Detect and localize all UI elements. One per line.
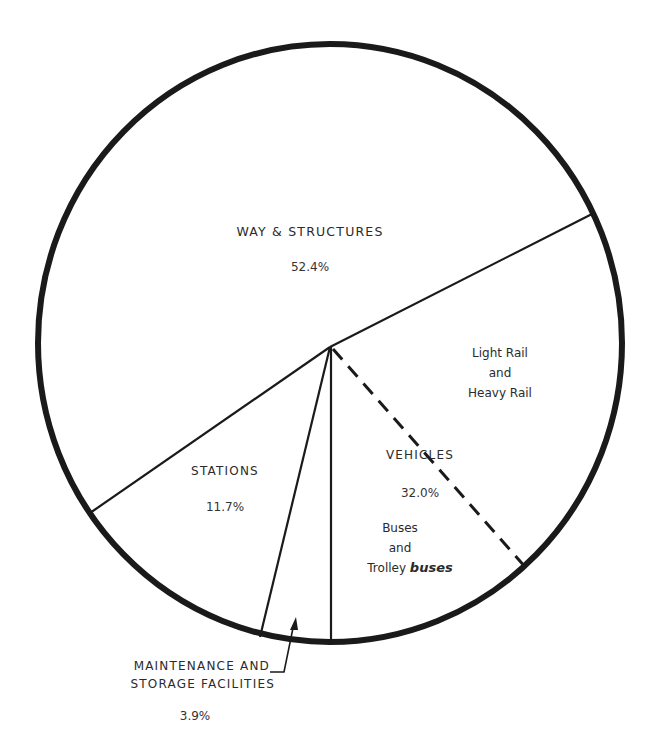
label-trolley: Trolley — [367, 561, 410, 575]
label-trolley-buses: Trolley buses — [340, 558, 480, 578]
value-stations: 11.7% — [185, 500, 265, 514]
value-maintenance: 3.9% — [165, 709, 225, 723]
label-light-rail: Light Rail — [440, 343, 560, 363]
label-maintenance-line1: MAINTENANCE AND — [110, 657, 270, 675]
divider-stations-maintenance — [260, 347, 330, 637]
value-way-structures: 52.4% — [270, 260, 350, 274]
value-vehicles: 32.0% — [380, 486, 460, 500]
label-stations: STATIONS — [170, 462, 280, 480]
label-rail-and: and — [440, 363, 560, 383]
label-buses: Buses — [350, 518, 450, 538]
maintenance-arrow-head — [290, 617, 298, 630]
label-maintenance-line2: STORAGE FACILITIES — [100, 675, 275, 693]
label-way-structures: WAY & STRUCTURES — [190, 223, 430, 241]
label-heavy-rail: Heavy Rail — [440, 383, 560, 403]
label-buses-and: and — [350, 538, 450, 558]
divider-way-stations — [90, 347, 330, 513]
label-handwritten-buses: buses — [410, 560, 453, 575]
label-vehicles: VEHICLES — [365, 446, 475, 464]
